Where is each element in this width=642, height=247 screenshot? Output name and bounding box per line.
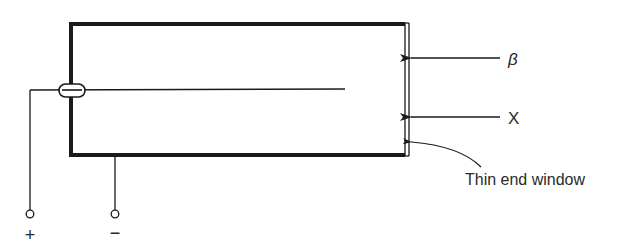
window-callout-arrow-icon xyxy=(411,142,481,167)
window-label: Thin end window xyxy=(465,171,586,188)
positive-lead xyxy=(26,90,34,218)
positive-terminal-icon xyxy=(26,210,34,218)
negative-lead xyxy=(111,156,119,218)
gm-tube-diagram: + − β X Thin end window xyxy=(0,0,642,247)
negative-terminal-icon xyxy=(111,210,119,218)
plus-label: + xyxy=(25,225,36,245)
beta-label: β xyxy=(507,50,518,69)
xray-label: X xyxy=(508,109,519,128)
minus-label: − xyxy=(110,223,121,243)
